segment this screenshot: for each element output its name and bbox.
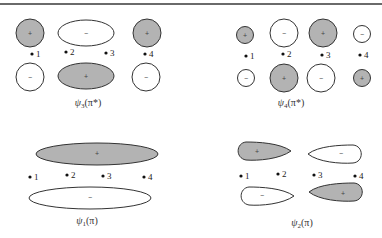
- lobe-psi4-bottom-3: −: [307, 64, 335, 92]
- svg-text:−: −: [144, 74, 148, 81]
- svg-text:−: −: [282, 30, 286, 37]
- lobe-psi3-top-3: +: [133, 19, 161, 47]
- lobe-psi3-top-1: +: [16, 19, 44, 47]
- svg-text:3: 3: [107, 171, 112, 181]
- svg-text:−: −: [88, 194, 92, 201]
- lobe-psi2-bottom-1: −: [241, 187, 294, 205]
- svg-text:1: 1: [245, 171, 250, 181]
- lobe-psi1-bottom: −: [29, 187, 151, 209]
- svg-text:−: −: [260, 192, 264, 199]
- svg-text:−: −: [28, 74, 32, 81]
- svg-text:2: 2: [70, 47, 75, 57]
- label-psi2: ψ2(π): [291, 217, 312, 230]
- svg-text:+: +: [255, 148, 259, 155]
- lobe-psi4-top-1: +: [237, 27, 254, 44]
- svg-text:+: +: [28, 30, 32, 37]
- lobe-psi3-bottom-2: +: [58, 63, 114, 89]
- svg-text:−: −: [339, 150, 343, 157]
- lobe-psi2-bottom-2: +: [309, 183, 362, 201]
- svg-text:+: +: [360, 75, 364, 82]
- svg-text:+: +: [321, 30, 325, 37]
- svg-text:1: 1: [34, 172, 39, 182]
- svg-text:+: +: [282, 75, 286, 82]
- lobe-psi4-top-2: −: [270, 19, 298, 47]
- svg-text:+: +: [243, 32, 247, 39]
- svg-text:3: 3: [318, 170, 323, 180]
- svg-text:4: 4: [149, 49, 154, 59]
- panel-psi3: + − + 1 2 3 4 − + − ψ3(π*): [16, 19, 161, 110]
- atom-row-psi1: 1 2 3 4: [28, 170, 153, 182]
- orbital-diagram: + − + 1 2 3 4 − + − ψ3(π*): [0, 0, 382, 238]
- label-psi1: ψ1(π): [76, 215, 97, 228]
- svg-text:3: 3: [326, 50, 331, 60]
- svg-text:+: +: [145, 30, 149, 37]
- lobe-psi4-bottom-4: +: [354, 70, 371, 87]
- svg-text:+: +: [84, 73, 88, 80]
- svg-text:1: 1: [250, 51, 255, 61]
- lobe-psi4-top-4: −: [354, 26, 371, 43]
- lobe-psi4-top-3: +: [309, 19, 337, 47]
- svg-text:1: 1: [36, 49, 41, 59]
- svg-text:−: −: [360, 31, 364, 38]
- svg-text:−: −: [244, 75, 248, 82]
- svg-text:2: 2: [71, 170, 76, 180]
- lobe-psi3-bottom-3: −: [132, 63, 160, 91]
- svg-text:2: 2: [287, 49, 292, 59]
- svg-text:+: +: [95, 150, 99, 157]
- atom-row-psi2: 1 2 3 4: [239, 169, 364, 181]
- svg-text:+: +: [341, 190, 345, 197]
- lobe-psi4-bottom-2: +: [270, 64, 298, 92]
- svg-text:4: 4: [148, 172, 153, 182]
- label-psi3: ψ3(π*): [75, 97, 101, 110]
- svg-text:4: 4: [364, 50, 369, 60]
- panel-psi2: + − 1 2 3 4 − + ψ2(π): [238, 142, 364, 230]
- svg-text:4: 4: [359, 171, 364, 181]
- lobe-psi1-top: +: [36, 143, 158, 165]
- panel-psi1: + 1 2 3 4 − ψ1(π): [28, 143, 158, 228]
- label-psi4: ψ4(π*): [278, 97, 304, 110]
- svg-text:−: −: [84, 30, 88, 37]
- atom-row-psi4: 1 2 3 4: [244, 49, 369, 61]
- atom-row-psi3: 1 2 3 4: [30, 47, 154, 59]
- svg-text:−: −: [319, 75, 323, 82]
- lobe-psi2-top-1: +: [238, 142, 291, 160]
- lobe-psi3-bottom-1: −: [16, 63, 44, 91]
- svg-text:3: 3: [110, 48, 115, 58]
- lobe-psi2-top-2: −: [308, 145, 361, 163]
- lobe-psi4-bottom-1: −: [238, 70, 255, 87]
- panel-psi4: + − + − 1 2 3 4 − + −: [237, 19, 371, 110]
- svg-text:2: 2: [282, 169, 287, 179]
- lobe-psi3-top-2: −: [58, 20, 114, 46]
